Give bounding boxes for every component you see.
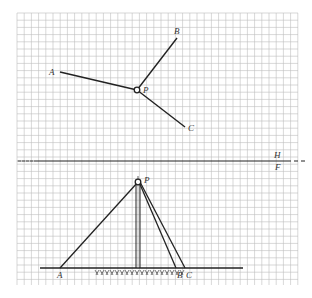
- label-front-b: B: [177, 270, 183, 280]
- front-member-pb: [139, 182, 176, 268]
- projection-diagram: ABCPHFPABC: [0, 0, 312, 298]
- label-front-c: C: [186, 270, 193, 280]
- label-top-a: A: [48, 67, 55, 77]
- label-top-c: C: [188, 123, 195, 133]
- top-member-pa: [60, 72, 137, 90]
- front-member-pa: [60, 182, 138, 268]
- label-front-a: A: [56, 270, 63, 280]
- label-top-p: P: [142, 85, 149, 95]
- top-member-pb: [137, 38, 177, 90]
- grid: [17, 13, 298, 285]
- front-joint-p: [135, 179, 141, 185]
- top-joint-p: [134, 87, 140, 93]
- front-view: [40, 176, 243, 275]
- label-front-p: P: [143, 175, 150, 185]
- label-h: H: [273, 150, 281, 160]
- label-f: F: [274, 162, 281, 172]
- label-top-b: B: [174, 26, 180, 36]
